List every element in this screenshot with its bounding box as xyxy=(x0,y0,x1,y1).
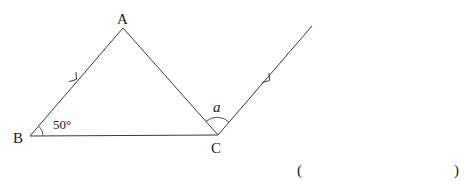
point-label-C: C xyxy=(211,140,221,156)
angle-label-a: a xyxy=(213,99,221,115)
segment-AC xyxy=(123,28,218,135)
segment-BC xyxy=(30,135,218,136)
answer-bracket-open: ( xyxy=(297,162,302,179)
answer-bracket-close: ) xyxy=(454,162,459,179)
parallel-arrow-icon xyxy=(263,74,270,83)
ray-from-C-parallel xyxy=(218,26,312,135)
geometry-diagram: A B C 50° a ( ) xyxy=(0,0,469,193)
point-label-A: A xyxy=(117,11,128,27)
point-label-B: B xyxy=(13,130,23,146)
angle-arc-B xyxy=(39,126,44,136)
angle-label-B: 50° xyxy=(53,117,71,132)
parallel-arrow-icon xyxy=(70,73,77,82)
segment-BA xyxy=(30,28,123,136)
angle-arc-C xyxy=(206,117,229,122)
